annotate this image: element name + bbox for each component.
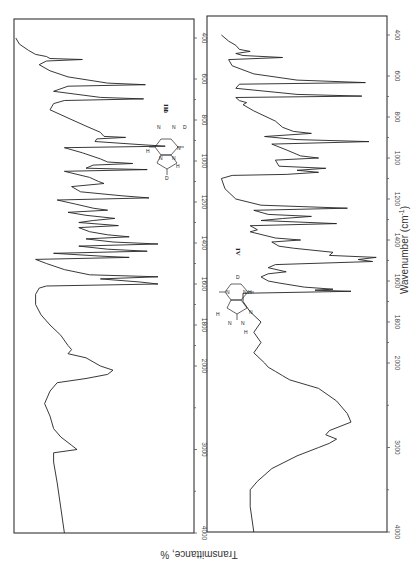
tick-label-iv-400: 400 [394,30,401,41]
panel-label-iv: IV [234,248,242,256]
atom-iii-n4: N [159,155,163,161]
spectrum-trace-iv [221,35,376,532]
atom-iv-n5: N [241,320,245,326]
tick-label-iii-1600: 1600 [201,277,208,292]
atom-iii-h2: H [176,163,180,169]
ir-spectra-figure: 4006008001000120014001600180020003000400… [0,0,420,569]
atom-iv-h1: H [248,289,252,295]
atom-iii-d2: D [183,124,187,130]
panel-iv-frame [207,16,387,532]
atom-iii-n1: N [157,124,161,130]
atom-iii-d1: D [164,108,168,114]
atom-iv-n4: N [228,320,232,326]
atom-iii-n3: N [177,145,181,151]
panel-iii-frame [14,19,194,533]
atom-iv-n3: N [249,309,253,315]
svg-text:D: D [165,175,169,181]
tick-label-iv-600: 600 [394,71,401,82]
tick-label-iii-800: 800 [201,115,208,126]
atom-iv-n1: N [226,289,230,295]
tick-label-iii-1000: 1000 [201,154,208,169]
tick-label-iii-1400: 1400 [201,236,208,251]
atom-iv-d: D [236,274,240,280]
tick-label-iii-2000: 2000 [201,359,208,374]
tick-label-iii-1200: 1200 [201,195,208,210]
atom-iii-n2: N [172,124,176,130]
spectrum-trace-iii [16,38,165,533]
tick-label-iii-1800: 1800 [201,318,208,333]
tick-label-iii-3000: 3000 [201,442,208,457]
tick-label-iv-2000: 2000 [394,356,401,371]
atom-iii-n5: N [172,155,176,161]
tick-label-iv-3000: 3000 [394,440,401,455]
tick-label-iii-400: 400 [201,33,208,44]
atom-iv-h2: H [216,311,220,317]
tick-label-iv-4000: 4000 [394,525,401,540]
tick-label-iv-1800: 1800 [394,315,401,330]
atom-iii-h1: H [146,148,150,154]
atom-iv-n2: N [243,289,247,295]
tick-label-iii-600: 600 [201,74,208,85]
tick-label-iv-1000: 1000 [394,151,401,166]
tick-label-iv-1200: 1200 [394,192,401,207]
tick-label-iii-4000: 4000 [201,526,208,541]
y-axis-label: Transmittance, % [160,549,238,560]
x-axis-label: Wavenumber (cm-1) [398,206,410,294]
tick-label-iv-800: 800 [394,112,401,123]
atom-iv-h3: H [244,329,248,335]
panel-iii-ticks: 4006008001000120014001600180020003000400… [194,33,208,541]
